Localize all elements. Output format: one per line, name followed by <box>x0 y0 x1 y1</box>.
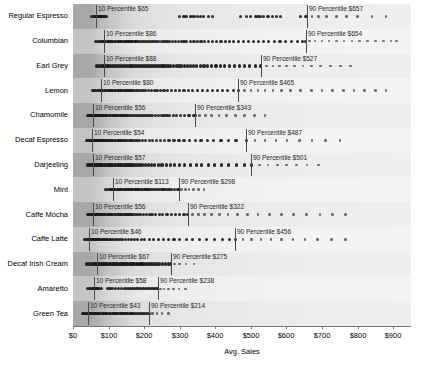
data-point <box>219 64 222 67</box>
x-axis-tick <box>393 326 394 329</box>
data-point <box>238 64 241 67</box>
p90-caption: 90 Percentile $275 <box>173 253 227 260</box>
p90-reference-line <box>238 79 239 102</box>
data-point <box>173 163 176 166</box>
category-label: Earl Grey <box>0 61 68 70</box>
data-point <box>298 139 301 142</box>
data-point <box>179 114 182 117</box>
data-point <box>276 164 279 167</box>
category-label: Caffe Latte <box>0 234 68 243</box>
data-point <box>225 114 228 117</box>
data-point <box>292 238 295 241</box>
data-point <box>228 64 231 67</box>
data-point <box>344 213 347 216</box>
data-point <box>210 64 213 67</box>
data-point <box>271 15 274 18</box>
data-point <box>197 213 200 216</box>
data-point <box>184 188 187 191</box>
data-point <box>342 89 345 92</box>
data-point <box>157 238 160 241</box>
category-label: Mint <box>0 185 68 194</box>
p90-reference-line <box>306 30 307 53</box>
p90-caption: 90 Percentile $322 <box>190 203 244 210</box>
data-point <box>185 15 188 18</box>
data-point <box>213 163 216 166</box>
data-point <box>290 40 293 43</box>
p10-reference-line <box>94 277 95 300</box>
data-point <box>305 213 308 216</box>
data-point <box>182 139 185 142</box>
x-axis-tick <box>322 326 323 329</box>
data-point <box>275 15 278 18</box>
p10-caption: 10 Percentile $113 <box>115 178 169 185</box>
data-point <box>325 15 328 18</box>
data-point <box>227 139 230 142</box>
data-point <box>197 188 200 191</box>
data-point <box>335 15 338 18</box>
x-axis-tick <box>358 326 359 329</box>
data-point <box>191 213 194 216</box>
data-point <box>184 288 187 291</box>
data-point <box>349 65 352 68</box>
category-label: Chamomile <box>0 110 68 119</box>
data-point <box>207 15 210 18</box>
x-axis-tick-label: $500 <box>231 331 271 340</box>
data-point <box>167 288 170 291</box>
category-label: Decaf Irish Cream <box>0 259 68 268</box>
p10-reference-line <box>93 104 94 127</box>
data-point <box>172 139 175 142</box>
data-point <box>324 139 327 142</box>
data-point <box>167 312 170 315</box>
data-point <box>243 114 246 117</box>
x-axis-tick-label: $800 <box>338 331 378 340</box>
data-point <box>374 89 377 92</box>
data-point <box>295 164 298 167</box>
data-point <box>242 238 245 241</box>
x-axis-tick-label: $0 <box>53 331 93 340</box>
p90-reference-line <box>179 178 180 201</box>
data-point <box>165 213 168 216</box>
p10-reference-line <box>101 79 102 102</box>
p90-caption: 90 Percentile $487 <box>248 129 302 136</box>
data-point <box>243 163 246 166</box>
data-point <box>194 139 197 142</box>
data-point <box>223 64 226 67</box>
data-point <box>210 114 213 117</box>
data-point <box>211 15 214 18</box>
x-axis-tick-label: $700 <box>302 331 342 340</box>
data-point <box>199 139 202 142</box>
data-point <box>170 213 173 216</box>
data-point <box>207 40 210 43</box>
x-axis-tick <box>215 326 216 329</box>
p10-caption: 10 Percentile $56 <box>95 104 145 111</box>
data-point <box>228 238 231 241</box>
data-point <box>167 139 170 142</box>
data-point <box>296 40 299 43</box>
p90-caption: 90 Percentile $298 <box>181 178 235 185</box>
data-point <box>151 312 154 315</box>
category-label: Decaf Espresso <box>0 135 68 144</box>
data-point <box>262 40 265 43</box>
data-point <box>211 40 214 43</box>
x-axis-line <box>73 326 411 327</box>
data-point <box>210 213 213 216</box>
data-point <box>152 238 155 241</box>
data-point <box>310 65 313 68</box>
data-point <box>292 213 295 216</box>
data-point <box>280 213 283 216</box>
p90-reference-line <box>246 129 247 152</box>
p10-caption: 10 Percentile $57 <box>95 154 145 161</box>
x-axis-tick <box>144 326 145 329</box>
data-point <box>185 238 188 241</box>
p10-reference-line <box>104 30 105 53</box>
x-axis-title: Avg. Sales <box>73 347 411 356</box>
data-point <box>206 64 209 67</box>
p90-reference-line <box>158 277 159 300</box>
x-axis-tick-label: $900 <box>373 331 413 340</box>
data-point <box>319 65 322 68</box>
data-point <box>267 40 270 43</box>
data-point <box>339 65 342 68</box>
p90-caption: 90 Percentile $238 <box>160 277 214 284</box>
x-axis-tick-label: $400 <box>195 331 235 340</box>
data-point <box>270 238 273 241</box>
